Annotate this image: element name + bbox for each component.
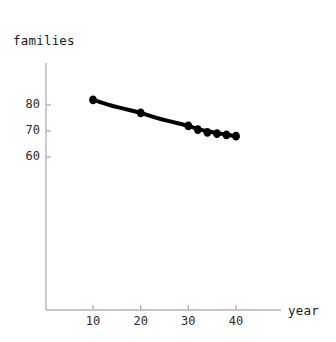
y-tick-label: 80 (14, 97, 40, 111)
data-point-marker (89, 95, 97, 104)
data-point-marker (137, 108, 145, 117)
data-point-marker (204, 128, 212, 137)
x-tick-label: 40 (224, 314, 248, 328)
data-point-marker (213, 129, 221, 138)
y-tick-label: 60 (14, 149, 40, 163)
plot-canvas (0, 0, 336, 342)
x-axis-title: year (288, 303, 319, 318)
x-tick-label: 10 (81, 314, 105, 328)
data-point-marker (223, 131, 231, 140)
chart-figure: families year 807060 10203040 (0, 0, 336, 342)
data-series-group (89, 95, 240, 140)
x-tick-label: 20 (129, 314, 153, 328)
axes-group (46, 63, 281, 310)
x-tick-label: 30 (176, 314, 200, 328)
y-tick-marks (46, 105, 51, 157)
x-tick-marks (93, 305, 236, 310)
y-tick-label: 70 (14, 123, 40, 137)
data-point-marker (184, 121, 192, 130)
data-point-marker (232, 132, 240, 141)
data-point-marker (194, 125, 202, 134)
y-axis-title: families (13, 33, 75, 48)
